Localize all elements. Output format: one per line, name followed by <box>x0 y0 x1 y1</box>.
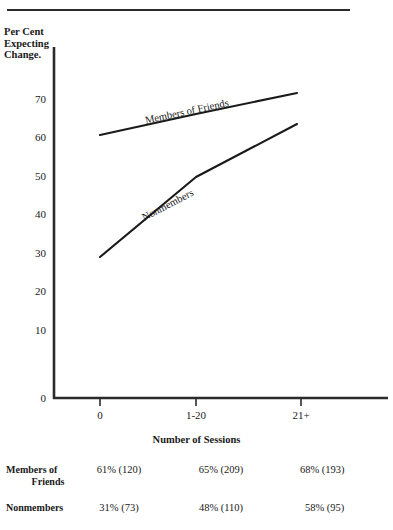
series-line-nonmembers <box>100 124 297 257</box>
table-cell-nonmembers-21-plus: 58% (95) <box>305 502 391 514</box>
table-row: Nonmembers 31% (73) 48% (110) 58% (95) <box>0 502 393 528</box>
figure-container: Per Cent Expecting Change. 70 60 50 40 3… <box>0 0 393 530</box>
table-row: Members of Friends 61% (120) 65% (209) 6… <box>0 464 393 490</box>
table-cell-members-1-20: 65% (209) <box>186 464 256 476</box>
table-cell-members-0: 61% (120) <box>84 464 154 476</box>
table-row-header-members-of-friends: Members of Friends <box>6 464 90 487</box>
table-cell-nonmembers-1-20: 48% (110) <box>186 502 256 514</box>
row-header-line-1: Members of <box>6 464 57 475</box>
data-table: Members of Friends 61% (120) 65% (209) 6… <box>0 464 393 528</box>
table-cell-members-21-plus: 68% (193) <box>300 464 386 476</box>
table-cell-nonmembers-0: 31% (73) <box>84 502 154 514</box>
row-header-line-1: Nonmembers <box>6 502 63 513</box>
chart-plot-area: Per Cent Expecting Change. 70 60 50 40 3… <box>0 0 393 410</box>
x-axis-title: Number of Sessions <box>0 434 393 445</box>
chart-svg <box>0 0 393 410</box>
x-tick-label-1-20: 1-20 <box>171 410 221 421</box>
x-tick-label-0: 0 <box>75 410 125 421</box>
table-row-header-nonmembers: Nonmembers <box>6 502 90 514</box>
x-tick-label-21-plus: 21+ <box>276 410 326 421</box>
row-header-line-2: Friends <box>6 476 90 488</box>
